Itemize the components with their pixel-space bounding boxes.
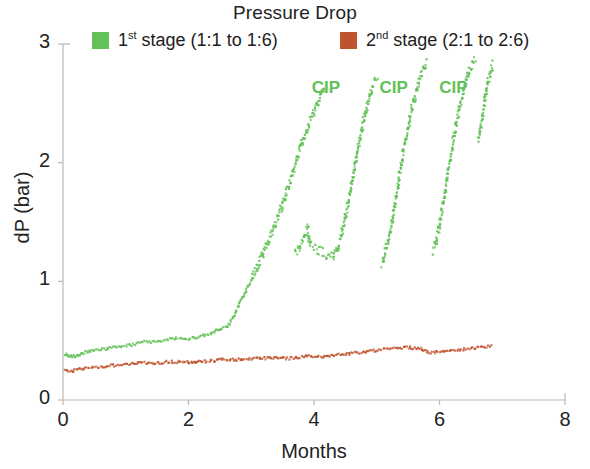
data-point xyxy=(446,350,448,352)
data-point xyxy=(331,251,333,253)
data-point xyxy=(426,58,428,60)
data-point xyxy=(349,193,351,195)
data-point xyxy=(269,241,271,243)
data-point xyxy=(412,348,414,350)
data-point xyxy=(350,187,352,189)
data-point xyxy=(293,168,295,170)
data-point xyxy=(272,228,274,230)
data-point xyxy=(480,123,482,125)
data-point xyxy=(477,346,479,348)
data-point xyxy=(264,249,266,251)
data-point xyxy=(288,179,290,181)
data-point xyxy=(262,253,264,255)
data-point xyxy=(343,221,345,223)
data-point xyxy=(181,338,183,340)
data-point xyxy=(484,105,486,107)
data-point xyxy=(368,100,370,102)
data-point xyxy=(263,356,265,358)
data-point xyxy=(344,213,346,215)
data-point xyxy=(458,108,460,110)
data-point xyxy=(409,115,411,117)
data-point xyxy=(314,244,316,246)
data-point xyxy=(348,199,350,201)
data-point xyxy=(150,362,152,364)
data-point xyxy=(281,211,283,213)
data-point xyxy=(278,211,280,213)
data-point xyxy=(83,353,85,355)
data-point xyxy=(440,351,442,353)
data-point xyxy=(374,79,376,81)
data-point xyxy=(383,347,385,349)
data-point xyxy=(304,134,306,136)
data-point xyxy=(123,345,125,347)
data-point xyxy=(431,351,433,353)
data-point xyxy=(338,245,340,247)
data-point xyxy=(485,99,487,101)
data-point xyxy=(328,253,330,255)
data-point xyxy=(168,362,170,364)
data-point xyxy=(491,67,493,69)
data-point xyxy=(141,361,143,363)
data-point xyxy=(255,270,257,272)
data-point xyxy=(341,228,343,230)
data-point xyxy=(173,362,175,364)
data-point xyxy=(281,207,283,209)
data-point xyxy=(74,356,76,358)
data-point xyxy=(293,358,295,360)
data-point xyxy=(337,250,339,252)
data-point xyxy=(395,203,397,205)
data-point xyxy=(436,240,438,242)
data-point xyxy=(333,355,335,357)
data-point xyxy=(126,344,128,346)
data-point xyxy=(269,231,271,233)
data-point xyxy=(410,348,412,350)
data-point xyxy=(329,356,331,358)
data-point xyxy=(73,354,75,356)
data-point xyxy=(401,159,403,161)
data-point xyxy=(459,106,461,108)
data-point xyxy=(396,192,398,194)
data-point xyxy=(107,348,109,350)
data-point xyxy=(258,260,260,262)
data-point xyxy=(389,228,391,230)
data-point xyxy=(484,95,486,97)
data-point xyxy=(450,153,452,155)
data-point xyxy=(78,354,80,356)
data-point xyxy=(206,361,208,363)
data-point xyxy=(229,358,231,360)
data-point xyxy=(487,345,489,347)
data-point xyxy=(64,369,66,371)
data-point xyxy=(452,141,454,143)
data-point xyxy=(452,143,454,145)
data-point xyxy=(217,358,219,360)
data-point xyxy=(207,334,209,336)
data-point xyxy=(380,266,382,268)
data-point xyxy=(354,168,356,170)
data-point xyxy=(93,349,95,351)
data-point xyxy=(398,184,400,186)
data-point xyxy=(313,114,315,116)
data-point xyxy=(383,259,385,261)
plot-area xyxy=(0,0,590,469)
data-point xyxy=(434,352,436,354)
data-point xyxy=(210,333,212,335)
data-point xyxy=(95,366,97,368)
data-point xyxy=(344,224,346,226)
data-series xyxy=(64,344,493,373)
data-point xyxy=(455,131,457,133)
data-point xyxy=(179,361,181,363)
data-point xyxy=(288,186,290,188)
data-point xyxy=(482,115,484,117)
data-point xyxy=(420,347,422,349)
data-point xyxy=(434,246,436,248)
data-point xyxy=(262,256,264,258)
data-point xyxy=(474,348,476,350)
data-point xyxy=(252,277,254,279)
data-point xyxy=(254,273,256,275)
data-point xyxy=(362,129,364,131)
data-point xyxy=(296,159,298,161)
data-point xyxy=(374,77,376,79)
data-point xyxy=(433,241,435,243)
data-point xyxy=(281,202,283,204)
data-point xyxy=(425,67,427,69)
